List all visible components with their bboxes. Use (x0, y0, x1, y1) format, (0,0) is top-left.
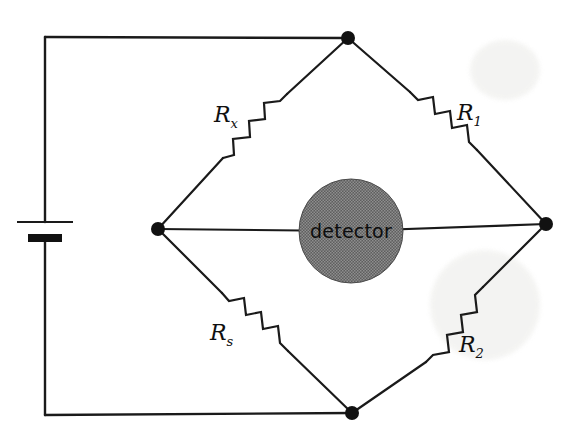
detector-label: detector (310, 220, 392, 242)
resistor-label-r1-sub: 1 (474, 114, 482, 129)
node-dot-right (539, 217, 553, 231)
resistor-label-r1: R1 (456, 100, 482, 129)
node-dot-top (341, 31, 355, 45)
node-dot-left (151, 222, 165, 236)
wire-rx-lower-lead (158, 158, 223, 229)
wire-r2-upper-lead (483, 224, 546, 287)
wire-rs-upper-lead (158, 229, 222, 293)
wire-top-horizontal (45, 37, 348, 38)
wire-r1-upper-lead (348, 38, 410, 92)
resistor-label-rx-main: R (213, 102, 231, 127)
resistor-label-r1-main: R (456, 100, 474, 125)
battery-symbol (17, 222, 73, 238)
node-dot-bottom (345, 406, 359, 420)
circuit-svg: detector Rx R1 Rs R2 (0, 0, 576, 437)
resistor-label-r2-main: R (458, 332, 476, 357)
circuit-diagram-figure: detector Rx R1 Rs R2 (0, 0, 576, 437)
resistor-label-rs-sub: s (227, 334, 234, 349)
wire-r1-lower-lead (477, 150, 546, 224)
resistor-label-rs-main: R (209, 320, 227, 345)
resistor-label-rx: Rx (213, 102, 239, 131)
wire-rx-upper-lead (287, 38, 348, 94)
wire-bottom-horizontal (45, 413, 352, 415)
wire-r2-lower-lead (352, 362, 426, 413)
wire-rs-lower-lead (288, 351, 352, 413)
resistor-label-r2: R2 (458, 332, 484, 361)
resistor-label-r2-sub: 2 (475, 346, 484, 361)
resistor-label-rs: Rs (209, 320, 234, 349)
resistor-label-rx-sub: x (231, 116, 239, 131)
